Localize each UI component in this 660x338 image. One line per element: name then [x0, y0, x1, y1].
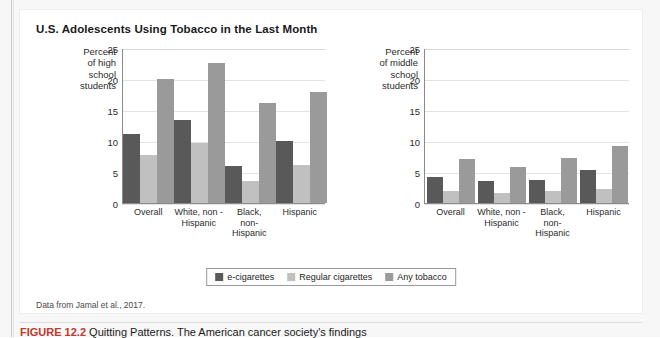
figure-caption-label: FIGURE 12.2 — [20, 326, 86, 338]
bar-regular-cigarettes[interactable] — [443, 191, 459, 203]
x-axis-label: White, non -Hispanic — [174, 207, 225, 239]
x-axis-line — [122, 203, 325, 204]
y-axis-title-line: Percent — [38, 46, 116, 57]
y-axis-title-line: of middle — [340, 57, 418, 68]
x-axis-label: Overall — [425, 207, 476, 239]
gridline — [122, 204, 325, 205]
x-axis-label-line: non-Hispanic — [527, 218, 578, 239]
bar-any-tobacco[interactable] — [612, 146, 628, 203]
x-axis-label-line: Hispanic — [275, 207, 326, 218]
y-axis-tick-label: 15 — [409, 106, 420, 117]
bar-regular-cigarettes[interactable] — [293, 165, 310, 203]
chart-panel-middle-school: Percentof middleschoolstudents 051015202… — [338, 44, 633, 224]
y-axis-title-line: school — [38, 69, 116, 80]
bar-group — [425, 49, 476, 203]
bar-group — [174, 49, 225, 203]
x-axis-label-line: Overall — [425, 207, 476, 218]
figure-caption-text: Quitting Patterns. The American cancer s… — [86, 326, 367, 338]
bar-any-tobacco[interactable] — [310, 92, 327, 203]
y-axis-tick-label: 0 — [113, 199, 118, 210]
bar-e-cigarettes[interactable] — [427, 177, 443, 203]
bar-e-cigarettes[interactable] — [276, 141, 293, 203]
figure-source-note: Data from Jamal et al., 2017. — [36, 300, 145, 310]
bar-regular-cigarettes[interactable] — [191, 143, 208, 203]
bar-group — [123, 49, 174, 203]
x-axis-label-line: White, non - — [476, 207, 527, 218]
bar-groups — [123, 49, 325, 203]
gridline — [424, 204, 629, 205]
figure-card: U.S. Adolescents Using Tobacco in the La… — [20, 10, 642, 313]
x-axis-label-line: non-Hispanic — [224, 218, 275, 239]
x-axis-label: Hispanic — [275, 207, 326, 239]
figure-title: U.S. Adolescents Using Tobacco in the La… — [36, 23, 317, 35]
bar-regular-cigarettes[interactable] — [494, 193, 510, 203]
legend-item[interactable]: e-cigarettes — [215, 272, 274, 282]
plot-inner-high-school: 0510152025OverallWhite, non -HispanicBla… — [122, 49, 325, 204]
bar-e-cigarettes[interactable] — [529, 180, 545, 203]
x-axis-label-line: Black, — [224, 207, 275, 218]
bar-any-tobacco[interactable] — [157, 79, 174, 203]
bar-regular-cigarettes[interactable] — [596, 189, 612, 203]
bar-any-tobacco[interactable] — [510, 167, 526, 203]
y-axis-tick-label: 25 — [409, 44, 420, 55]
bar-regular-cigarettes[interactable] — [545, 191, 561, 203]
legend-label: Regular cigarettes — [299, 272, 372, 282]
y-axis-tick-label: 25 — [107, 44, 118, 55]
x-axis-label: Black,non-Hispanic — [224, 207, 275, 239]
y-axis-title-line: of high — [38, 57, 116, 68]
bar-any-tobacco[interactable] — [561, 158, 577, 203]
bar-e-cigarettes[interactable] — [123, 134, 140, 203]
bar-regular-cigarettes[interactable] — [242, 181, 259, 203]
x-axis-label: Hispanic — [578, 207, 629, 239]
bar-group — [527, 49, 578, 203]
x-axis-label-line: White, non - — [174, 207, 225, 218]
y-axis-tick-label: 15 — [107, 106, 118, 117]
bar-regular-cigarettes[interactable] — [140, 155, 157, 203]
bar-any-tobacco[interactable] — [208, 63, 225, 203]
y-axis-title-line: students — [340, 80, 418, 91]
legend-swatch-icon — [385, 273, 393, 281]
y-axis-tick-label: 20 — [409, 75, 420, 86]
legend-swatch-icon — [215, 273, 223, 281]
figure-caption: FIGURE 12.2 Quitting Patterns. The Ameri… — [20, 326, 642, 338]
bar-group — [476, 49, 527, 203]
bar-any-tobacco[interactable] — [459, 159, 475, 203]
bar-group — [225, 49, 276, 203]
y-axis-tick-label: 5 — [113, 168, 118, 179]
x-axis-label-line: Hispanic — [578, 207, 629, 218]
page-gutter-rule — [11, 0, 12, 337]
y-axis-tick-label: 20 — [107, 75, 118, 86]
x-axis-label: Black,non-Hispanic — [527, 207, 578, 239]
legend-item[interactable]: Any tobacco — [385, 272, 447, 282]
bar-e-cigarettes[interactable] — [174, 120, 191, 203]
caption-divider — [20, 322, 642, 323]
x-axis-labels: OverallWhite, non -HispanicBlack,non-His… — [123, 207, 325, 239]
y-axis-title-high-school: Percentof highschoolstudents — [38, 46, 116, 92]
y-axis-title-line: students — [38, 80, 116, 91]
bar-e-cigarettes[interactable] — [580, 170, 596, 203]
bar-any-tobacco[interactable] — [259, 103, 276, 203]
bar-e-cigarettes[interactable] — [225, 166, 242, 203]
legend-swatch-icon — [287, 273, 295, 281]
y-axis-tick-label: 5 — [415, 168, 420, 179]
x-axis-label-line: Overall — [123, 207, 174, 218]
page-gutter-rule-secondary — [13, 0, 14, 337]
y-axis-tick-label: 10 — [107, 137, 118, 148]
legend-label: e-cigarettes — [227, 272, 274, 282]
y-axis-title-middle-school: Percentof middleschoolstudents — [340, 46, 418, 92]
legend-item[interactable]: Regular cigarettes — [287, 272, 372, 282]
x-axis-label-line: Hispanic — [476, 218, 527, 229]
plot-area-high-school: 0510152025OverallWhite, non -HispanicBla… — [122, 49, 325, 204]
y-axis-tick-label: 0 — [415, 199, 420, 210]
x-axis-label: White, non -Hispanic — [476, 207, 527, 239]
plot-area-middle-school: 0510152025OverallWhite, non -HispanicBla… — [424, 49, 629, 204]
bar-group — [578, 49, 629, 203]
bar-e-cigarettes[interactable] — [478, 181, 494, 203]
y-axis-title-line: school — [340, 69, 418, 80]
x-axis-label: Overall — [123, 207, 174, 239]
x-axis-line — [424, 203, 629, 204]
x-axis-label-line: Black, — [527, 207, 578, 218]
y-axis-tick-label: 10 — [409, 137, 420, 148]
chart-panel-high-school: Percentof highschoolstudents 0510152025O… — [34, 44, 329, 224]
